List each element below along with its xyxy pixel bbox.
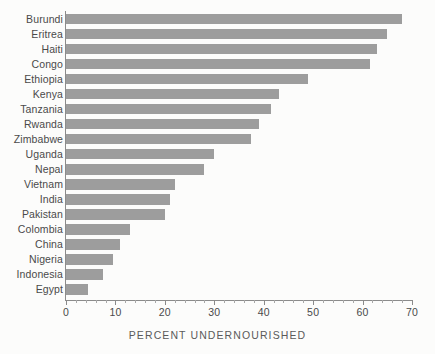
x-axis-minor-tick: [185, 300, 186, 303]
x-axis-tick-label: 40: [258, 306, 270, 318]
x-axis-minor-tick: [244, 300, 245, 303]
bar: [66, 89, 279, 100]
bar: [66, 179, 175, 190]
x-axis-minor-tick: [353, 300, 354, 303]
bar: [66, 29, 387, 40]
category-label: Uganda: [26, 147, 63, 162]
x-axis-tick-label: 60: [357, 306, 369, 318]
bar-row: Tanzania: [66, 102, 412, 117]
bar: [66, 239, 120, 250]
x-axis-minor-tick: [323, 300, 324, 303]
x-axis-minor-tick: [392, 300, 393, 303]
x-axis-minor-tick: [195, 300, 196, 303]
x-axis-minor-tick: [283, 300, 284, 303]
bar-row: Pakistan: [66, 208, 412, 223]
x-axis-minor-tick: [155, 300, 156, 303]
bar-row: Rwanda: [66, 117, 412, 132]
bar: [66, 284, 88, 295]
bar-row: Colombia: [66, 223, 412, 238]
bar: [66, 119, 259, 130]
x-axis-tick: [313, 300, 314, 305]
x-axis-minor-tick: [125, 300, 126, 303]
bar: [66, 269, 103, 280]
x-axis-minor-tick: [382, 300, 383, 303]
bar-row: India: [66, 193, 412, 208]
x-axis-minor-tick: [204, 300, 205, 303]
bar-row: Eritrea: [66, 27, 412, 42]
x-axis-minor-tick: [254, 300, 255, 303]
bar-row: Egypt: [66, 283, 412, 298]
category-label: Burundi: [26, 12, 63, 27]
bar-row: Nepal: [66, 163, 412, 178]
x-axis-minor-tick: [274, 300, 275, 303]
x-axis-tick-label: 10: [109, 306, 121, 318]
bar: [66, 104, 271, 115]
bar: [66, 194, 170, 205]
x-axis-minor-tick: [145, 300, 146, 303]
x-axis-minor-tick: [293, 300, 294, 303]
category-label: Rwanda: [24, 117, 63, 132]
bar-row: Congo: [66, 57, 412, 72]
x-axis-tick: [66, 300, 67, 305]
bar-row: Uganda: [66, 147, 412, 162]
bar-row: China: [66, 238, 412, 253]
bar: [66, 134, 251, 145]
bar: [66, 59, 370, 70]
category-label: Egypt: [36, 282, 63, 297]
category-label: Ethiopia: [24, 72, 63, 87]
bar-row: Haiti: [66, 42, 412, 57]
plot-area: BurundiEritreaHaitiCongoEthiopiaKenyaTan…: [66, 12, 412, 299]
bar-chart: BurundiEritreaHaitiCongoEthiopiaKenyaTan…: [0, 0, 435, 354]
x-axis-minor-tick: [224, 300, 225, 303]
x-axis-line: [65, 300, 413, 301]
category-label: Nigeria: [29, 252, 63, 267]
category-label: Eritrea: [31, 27, 63, 42]
x-axis-tick-label: 70: [406, 306, 418, 318]
bar-row: Nigeria: [66, 253, 412, 268]
x-axis-tick: [165, 300, 166, 305]
bar: [66, 14, 402, 25]
x-axis-minor-tick: [76, 300, 77, 303]
bar-row: Kenya: [66, 87, 412, 102]
category-label: Kenya: [33, 87, 63, 102]
x-axis-tick-label: 20: [159, 306, 171, 318]
x-axis-tick: [363, 300, 364, 305]
x-axis-minor-tick: [343, 300, 344, 303]
x-axis-minor-tick: [175, 300, 176, 303]
bar-row: Burundi: [66, 12, 412, 27]
category-label: Zimbabwe: [14, 132, 63, 147]
x-axis-tick: [214, 300, 215, 305]
category-label: Vietnam: [24, 177, 63, 192]
category-label: Indonesia: [17, 267, 63, 282]
x-axis-minor-tick: [333, 300, 334, 303]
bar: [66, 44, 377, 55]
bar: [66, 209, 165, 220]
x-axis-tick-label: 30: [208, 306, 220, 318]
bar: [66, 149, 214, 160]
bar-row: Ethiopia: [66, 72, 412, 87]
x-axis-minor-tick: [135, 300, 136, 303]
x-axis-tick-label: 0: [63, 306, 69, 318]
x-axis-minor-tick: [96, 300, 97, 303]
category-label: Nepal: [35, 162, 63, 177]
x-axis-tick: [264, 300, 265, 305]
category-label: Haiti: [41, 42, 63, 57]
category-label: Pakistan: [22, 207, 63, 222]
bar-row: Zimbabwe: [66, 132, 412, 147]
x-axis-title: PERCENT UNDERNOURISHED: [0, 329, 435, 341]
x-axis-minor-tick: [372, 300, 373, 303]
bar: [66, 254, 113, 265]
x-axis-minor-tick: [106, 300, 107, 303]
x-axis-minor-tick: [86, 300, 87, 303]
category-label: Congo: [32, 57, 63, 72]
x-axis-minor-tick: [303, 300, 304, 303]
bar: [66, 74, 308, 85]
bar: [66, 164, 204, 175]
x-axis-tick-label: 50: [307, 306, 319, 318]
category-label: Colombia: [18, 222, 63, 237]
bar-row: Indonesia: [66, 268, 412, 283]
category-label: Tanzania: [20, 102, 63, 117]
x-axis-tick: [412, 300, 413, 305]
bar: [66, 224, 130, 235]
x-axis-tick: [115, 300, 116, 305]
